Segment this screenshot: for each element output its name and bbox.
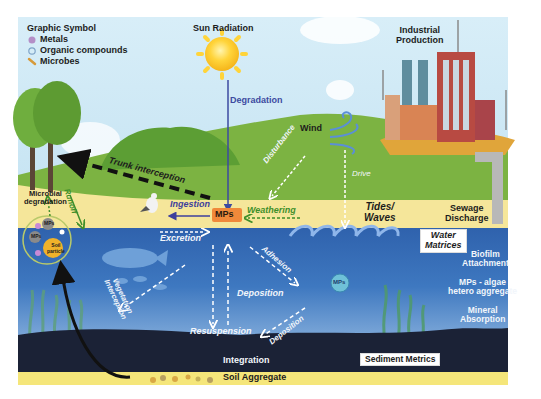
tides-label: Tides/ Waves <box>364 201 396 223</box>
sewage-line2: Discharge <box>445 214 489 224</box>
biofilm-label: Biofilm Attachment <box>462 250 509 269</box>
water-mps-label: MPs <box>333 279 345 286</box>
soil-mps-a: MPs <box>44 221 54 227</box>
drive-label: Drive <box>352 170 371 179</box>
industrial-line2: Production <box>396 36 444 46</box>
weathering-label: Weathering <box>247 206 296 216</box>
water-matrices-line2: Matrices <box>425 241 462 251</box>
hetero-line2: hetero aggregate <box>448 287 517 296</box>
legend-microbes: Microbes <box>40 57 80 67</box>
soil-mps-b: MPs <box>31 234 41 240</box>
sun-radiation-label: Sun Radiation <box>193 24 254 34</box>
biofilm-line2: Attachment <box>462 259 509 268</box>
soil-aggregate-label: Soil Aggregate <box>223 373 286 383</box>
legend-metals: Metals <box>40 35 68 45</box>
legend-title: Graphic Symbol <box>27 24 96 34</box>
mps-label: MPs <box>215 210 234 220</box>
sediment-metrics-label: Sediment Metrics <box>360 353 440 366</box>
mineral-absorption-label: Mineral Absorption <box>460 306 505 325</box>
sewage-label: Sewage Discharge <box>445 204 489 224</box>
wind-label: Wind <box>300 124 322 134</box>
tides-line2: Waves <box>364 212 396 223</box>
water-matrices-label: Water Matrices <box>420 229 467 253</box>
ingestion-label: Ingestion <box>170 200 210 210</box>
sun-icon <box>198 30 246 78</box>
deposition-center-label: Deposition <box>237 289 284 299</box>
resuspension-label: Resuspension <box>190 327 252 337</box>
industrial-label: Industrial Production <box>396 26 444 46</box>
hetero-aggregate-label: MPs - algae hetero aggregate <box>448 278 517 297</box>
soil-particle-line2: particle <box>47 249 65 255</box>
cloud <box>300 16 380 44</box>
soil-particle-label: Soil particle <box>47 243 65 254</box>
tides-line1: Tides/ <box>364 201 396 212</box>
microbial-label: Microbial degradation <box>24 190 67 207</box>
metal-circle-icon <box>29 37 36 44</box>
excretion-label: Excretion <box>160 234 201 244</box>
microbial-line2: degradation <box>24 198 67 206</box>
legend-organic: Organic compounds <box>40 46 128 56</box>
mineral-line2: Absorption <box>460 315 505 324</box>
degradation-label: Degradation <box>230 96 283 106</box>
integration-label: Integration <box>223 356 270 366</box>
cloud <box>326 80 354 100</box>
